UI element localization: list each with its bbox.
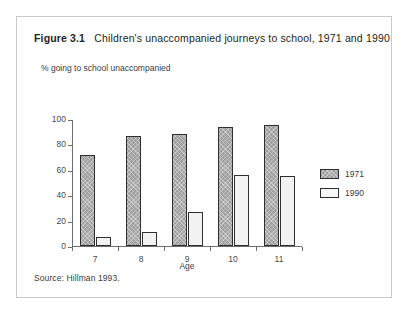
x-tick-mark: [210, 247, 211, 251]
y-axis-line: [72, 120, 73, 247]
bar-1990-age-10: [234, 175, 249, 246]
x-axis-label: Age: [72, 261, 302, 271]
legend-item-1990[interactable]: 1990: [320, 188, 364, 198]
bar-1990-age-9: [188, 212, 203, 246]
bar-1990-age-8: [142, 232, 157, 246]
y-tick-label: 60: [57, 165, 66, 175]
bar-1971-age-8: [126, 136, 141, 246]
legend-swatch-1990: [320, 188, 339, 198]
y-tick-mark: [68, 145, 72, 146]
chart-plot-area: % going to school unaccompanied 02040608…: [17, 63, 393, 263]
chart-legend: 19711990: [320, 169, 364, 207]
bar-1971-age-10: [218, 127, 233, 246]
y-tick-mark: [68, 222, 72, 223]
figure-caption: Children's unaccompanied journeys to sch…: [94, 32, 390, 44]
source-note: Source: Hillman 1993.: [34, 273, 120, 283]
figure-box: Figure 3.1 Children's unaccompanied jour…: [16, 16, 392, 298]
y-tick-mark: [68, 120, 72, 121]
y-tick-label: 20: [57, 216, 66, 226]
figure-title: Figure 3.1 Children's unaccompanied jour…: [34, 32, 390, 44]
y-tick-label: 0: [61, 241, 66, 251]
bar-1990-age-11: [280, 176, 295, 246]
legend-label-1990: 1990: [345, 189, 364, 198]
x-tick-mark: [164, 247, 165, 251]
x-tick-mark: [256, 247, 257, 251]
y-tick-label: 100: [52, 114, 66, 124]
y-tick-label: 80: [57, 139, 66, 149]
legend-item-1971[interactable]: 1971: [320, 169, 364, 179]
figure-number: Figure 3.1: [34, 32, 85, 44]
x-axis-line: [72, 246, 302, 247]
figure-caption-text: [85, 32, 94, 44]
bar-1971-age-11: [264, 125, 279, 246]
y-tick-label: 40: [57, 190, 66, 200]
bar-1971-age-7: [80, 155, 95, 246]
x-tick-mark: [118, 247, 119, 251]
bar-1971-age-9: [172, 134, 187, 246]
y-tick-mark: [68, 171, 72, 172]
bar-1990-age-7: [96, 237, 111, 246]
chart-axes: 020406080100 7891011: [72, 120, 302, 247]
x-tick-mark: [302, 247, 303, 251]
legend-swatch-1971: [320, 169, 339, 179]
y-tick-mark: [68, 196, 72, 197]
y-axis-label: % going to school unaccompanied: [41, 63, 170, 73]
x-tick-mark: [72, 247, 73, 251]
legend-label-1971: 1971: [345, 170, 364, 179]
